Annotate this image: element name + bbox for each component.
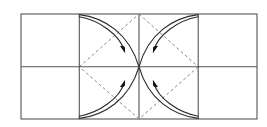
right-midpoint-vertex-marker: [197, 66, 199, 68]
left-midpoint-vertex-marker: [79, 66, 81, 68]
figure-root: [0, 0, 267, 127]
folding-diagram-svg: [0, 0, 267, 127]
figure-background: [0, 0, 267, 127]
center-vertex-marker: [138, 66, 140, 68]
